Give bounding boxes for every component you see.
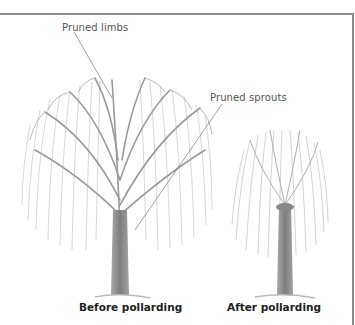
tree-illustration bbox=[0, 0, 355, 325]
pruned-sprouts-label: Pruned sprouts bbox=[210, 92, 287, 103]
before-pollarding-caption: Before pollarding bbox=[79, 301, 182, 313]
before-tree bbox=[22, 78, 212, 298]
after-pollarding-caption: After pollarding bbox=[227, 301, 321, 313]
pruned-sprouts-leader-line bbox=[135, 104, 222, 230]
after-tree bbox=[232, 130, 328, 298]
pruned-limbs-label: Pruned limbs bbox=[62, 22, 128, 33]
